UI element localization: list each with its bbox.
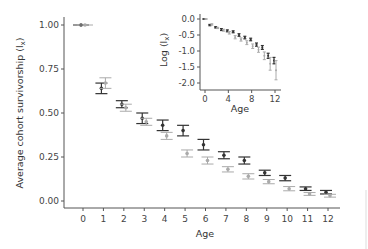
- data-point-light: [245, 41, 248, 45]
- x-tick-label: 4: [162, 214, 168, 224]
- data-point-dark: [157, 120, 169, 131]
- x-tick-label: 8: [243, 214, 249, 224]
- x-tick-label: 1: [101, 214, 107, 224]
- y-tick-label: 0.50: [39, 108, 59, 118]
- data-point-light: [181, 150, 193, 157]
- data-point-light: [161, 132, 173, 139]
- y-tick-label: 0.00: [39, 196, 59, 206]
- inset-y-ticks: 0.0-0.5-1.0-1.5-2.0: [178, 14, 200, 88]
- x-tick-label: 2: [121, 214, 127, 224]
- x-tick-label: 9: [264, 214, 270, 224]
- inset-data-points: [202, 18, 278, 80]
- y-tick-label: 0.0: [181, 14, 195, 24]
- x-tick-label: 8: [249, 94, 254, 104]
- data-point-dark: [261, 46, 264, 50]
- x-tick-label: 0: [80, 214, 86, 224]
- data-point-light: [202, 157, 214, 164]
- main-x-axis-title: Age: [196, 228, 215, 239]
- data-point-dark: [279, 175, 291, 180]
- data-point-light: [257, 47, 260, 52]
- data-point-light: [251, 44, 254, 48]
- survivorship-chart: 0.000.250.500.751.00 0123456789101112 Ag…: [0, 0, 368, 249]
- main-axes: 0.000.250.500.751.00 0123456789101112 Ag…: [14, 17, 340, 239]
- data-point-dark: [177, 125, 189, 136]
- x-tick-label: 12: [270, 94, 281, 104]
- data-point-light: [242, 174, 254, 179]
- data-point-dark: [238, 157, 250, 164]
- x-tick-label: 11: [302, 214, 313, 224]
- y-tick-label: -2.0: [178, 78, 195, 88]
- data-point-dark: [218, 152, 230, 159]
- data-point-dark: [243, 36, 246, 39]
- data-point-dark: [238, 34, 241, 37]
- y-tick-label: 0.25: [39, 152, 59, 162]
- main-y-axis-title: Average cohort survivorship (lx): [14, 38, 27, 189]
- data-point-dark: [232, 31, 235, 33]
- inset-x-ticks: 04812: [202, 90, 280, 104]
- data-point-dark: [198, 139, 210, 150]
- inset-axes: 0.0-0.5-1.0-1.5-2.0 04812 Age Log (lx): [158, 14, 281, 114]
- data-point-light: [234, 36, 237, 39]
- main-y-ticks: 0.000.250.500.751.00: [39, 20, 64, 206]
- x-tick-label: 10: [281, 214, 293, 224]
- y-tick-label: -0.5: [178, 30, 195, 40]
- data-point-light: [228, 31, 231, 34]
- data-point-light: [77, 23, 93, 27]
- data-point-light: [324, 194, 336, 198]
- y-tick-label: -1.5: [178, 62, 195, 72]
- data-point-dark: [300, 187, 312, 191]
- x-tick-label: 5: [182, 214, 188, 224]
- data-point-light: [222, 167, 234, 172]
- data-point-dark: [259, 170, 271, 175]
- inset-x-axis-title: Age: [231, 103, 250, 114]
- inset-y-axis-title: Log (lx): [158, 33, 171, 67]
- main-data-points: [73, 23, 336, 197]
- data-point-light: [304, 192, 316, 196]
- x-tick-label: 7: [223, 214, 229, 224]
- y-tick-label: 0.75: [39, 64, 59, 74]
- data-point-dark: [249, 38, 252, 41]
- y-tick-label: 1.00: [39, 20, 59, 30]
- data-point-dark: [255, 43, 258, 46]
- x-tick-label: 6: [203, 214, 209, 224]
- x-tick-label: 12: [322, 214, 333, 224]
- data-point-light: [240, 38, 243, 41]
- x-tick-label: 0: [202, 94, 207, 104]
- main-x-ticks: 0123456789101112: [80, 208, 334, 224]
- x-tick-label: 3: [141, 214, 147, 224]
- data-point-light: [263, 52, 266, 60]
- data-point-light: [263, 180, 275, 184]
- y-tick-label: -1.0: [178, 46, 195, 56]
- data-point-light: [283, 187, 295, 191]
- data-point-light: [269, 57, 272, 70]
- data-point-dark: [320, 190, 332, 194]
